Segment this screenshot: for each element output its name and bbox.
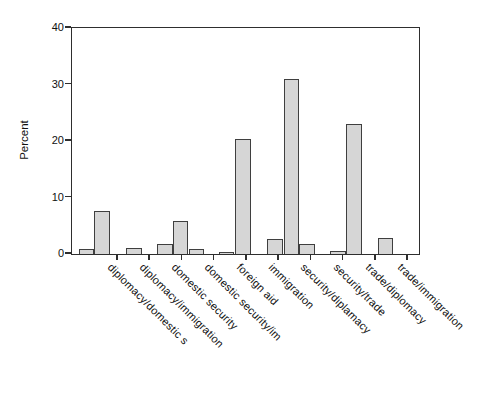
bar — [267, 239, 283, 254]
y-tick-mark — [65, 252, 71, 254]
bar — [157, 244, 173, 254]
y-axis-title: Percent — [18, 120, 30, 160]
y-tick-mark — [65, 26, 71, 28]
x-tick-mark — [213, 255, 215, 260]
x-tick-mark — [342, 255, 344, 260]
bar — [126, 248, 142, 254]
x-tick-mark — [181, 255, 183, 260]
y-tick-label: 10 — [38, 191, 64, 203]
bar — [330, 251, 346, 254]
bar — [79, 249, 95, 254]
x-tick-mark — [406, 255, 408, 260]
x-tick-mark — [116, 255, 118, 260]
bar — [235, 139, 251, 254]
y-tick-label: 30 — [38, 78, 64, 90]
bar — [173, 221, 189, 254]
y-tick-mark — [65, 83, 71, 85]
x-tick-mark — [245, 255, 247, 260]
y-tick-label: 20 — [38, 134, 64, 146]
y-tick-label: 40 — [38, 21, 64, 33]
bar — [189, 249, 205, 254]
bar — [346, 124, 362, 255]
bar — [284, 79, 300, 254]
x-tick-mark — [374, 255, 376, 260]
x-tick-mark — [277, 255, 279, 260]
y-tick-mark — [65, 196, 71, 198]
y-tick-label: 0 — [38, 247, 64, 259]
bar-chart-figure: Percent 010203040diplomacy/domestic sdip… — [0, 0, 503, 397]
bar — [378, 238, 394, 254]
x-tick-mark — [310, 255, 312, 260]
bar — [219, 252, 235, 254]
plot-area — [71, 27, 420, 255]
bar — [94, 211, 110, 255]
bar — [299, 244, 315, 254]
x-tick-mark — [148, 255, 150, 260]
y-tick-mark — [65, 139, 71, 141]
